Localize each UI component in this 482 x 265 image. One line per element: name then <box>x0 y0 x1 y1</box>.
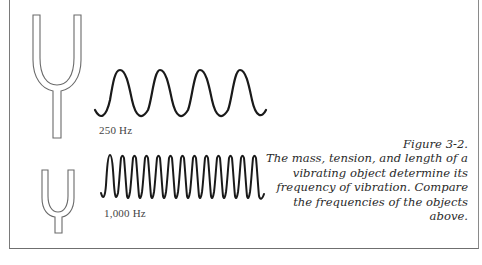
figure-caption: Figure 3-2. The mass, tension, and lengt… <box>258 137 468 223</box>
small-tuning-fork-icon <box>42 170 74 233</box>
figure-caption-text: The mass, tension, and length of a vibra… <box>266 151 468 223</box>
figure-illustration <box>0 0 482 265</box>
figure-title: Figure 3-2. <box>258 137 468 151</box>
wave-250hz <box>95 70 266 116</box>
wave-label-1000hz: 1,000 Hz <box>104 207 146 219</box>
large-tuning-fork-icon <box>33 15 81 138</box>
wave-1000hz <box>101 155 264 199</box>
wave-label-250hz: 250 Hz <box>99 124 132 136</box>
